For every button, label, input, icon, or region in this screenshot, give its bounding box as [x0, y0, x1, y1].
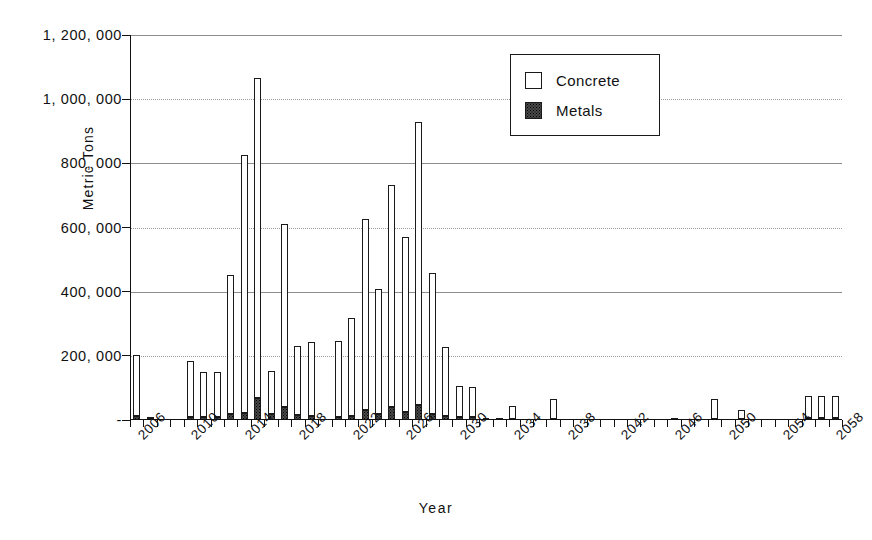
y-tick-label: 1, 000, 000 — [22, 91, 122, 107]
x-tick-mark — [829, 420, 830, 427]
bar-segment-concrete — [214, 372, 221, 417]
bar-segment-concrete — [429, 273, 436, 414]
y-tick-mark — [122, 227, 130, 228]
plot-area — [130, 35, 842, 420]
x-tick-mark — [399, 420, 400, 427]
bar-segment-concrete — [388, 185, 395, 406]
x-tick-mark — [385, 420, 386, 427]
x-tick-mark — [560, 420, 561, 427]
x-tick-mark — [600, 420, 601, 427]
bar-segment-concrete — [415, 122, 422, 404]
metals-swatch-icon — [525, 102, 542, 119]
bar-segment-concrete — [335, 341, 342, 416]
x-tick-mark — [506, 420, 507, 427]
x-tick-mark — [654, 420, 655, 427]
bar-2019 — [308, 342, 315, 420]
bar-segment-concrete — [550, 399, 557, 418]
x-tick-mark — [493, 420, 494, 427]
bar-2018 — [294, 346, 301, 420]
bar-segment-metals — [281, 407, 288, 420]
x-tick-mark — [546, 420, 547, 427]
chart-legend: Concrete Metals — [510, 54, 660, 136]
y-axis-line — [130, 35, 131, 420]
legend-item-metals: Metals — [525, 95, 659, 125]
bar-2010 — [187, 361, 194, 420]
x-tick-mark — [721, 420, 722, 427]
legend-label-concrete: Concrete — [556, 72, 620, 89]
bar-segment-concrete — [456, 386, 463, 416]
x-tick-mark — [775, 420, 776, 427]
y-tick-label: - — [22, 412, 122, 428]
bar-segment-concrete — [133, 355, 140, 416]
x-tick-mark — [237, 420, 238, 427]
bar-2021 — [335, 341, 342, 420]
x-tick-mark — [815, 420, 816, 427]
x-axis-title: Year — [0, 500, 872, 516]
bar-2028 — [429, 273, 436, 420]
bar-2014 — [241, 155, 248, 420]
bar-2030 — [456, 386, 463, 420]
concrete-swatch-icon — [525, 72, 542, 89]
bar-segment-concrete — [442, 347, 449, 416]
bar-2049 — [711, 399, 718, 420]
bar-segment-concrete — [362, 219, 369, 410]
x-tick-mark — [614, 420, 615, 427]
bar-2017 — [281, 224, 288, 420]
x-tick-mark — [345, 420, 346, 427]
y-tick-mark — [122, 420, 130, 421]
bar-segment-concrete — [254, 78, 261, 397]
y-tick-mark — [122, 163, 130, 164]
chart-figure: Metric Tons 1, 200, 0001, 000, 000800, 0… — [0, 0, 872, 540]
x-tick-mark — [452, 420, 453, 427]
bar-segment-concrete — [402, 237, 409, 412]
bar-segment-concrete — [187, 361, 194, 417]
bar-segment-concrete — [711, 399, 718, 418]
x-tick-mark — [332, 420, 333, 427]
bar-segment-concrete — [227, 275, 234, 415]
bar-2027 — [415, 122, 422, 420]
bar-2029 — [442, 347, 449, 420]
y-tick-label: 800, 000 — [22, 155, 122, 171]
bar-2024 — [375, 289, 382, 420]
x-tick-mark — [170, 420, 171, 427]
y-tick-label: 200, 000 — [22, 348, 122, 364]
x-axis-tick-labels: 2006201020142018202220262030203420382042… — [130, 428, 842, 488]
x-tick-mark — [761, 420, 762, 427]
bar-segment-concrete — [375, 289, 382, 414]
x-tick-mark — [224, 420, 225, 427]
y-tick-mark — [122, 35, 130, 36]
y-tick-mark — [122, 99, 130, 100]
y-tick-mark — [122, 355, 130, 356]
bar-2026 — [402, 237, 409, 420]
bar-segment-concrete — [294, 346, 301, 415]
bar-2057 — [818, 396, 825, 420]
bar-segment-concrete — [241, 155, 248, 413]
y-tick-label: 1, 200, 000 — [22, 27, 122, 43]
y-tick-label: 600, 000 — [22, 220, 122, 236]
bar-2006 — [133, 355, 140, 420]
bar-segment-concrete — [348, 318, 355, 416]
bar-2015 — [254, 78, 261, 420]
x-tick-mark — [278, 420, 279, 427]
bar-2022 — [348, 318, 355, 420]
x-tick-mark — [291, 420, 292, 427]
bar-segment-concrete — [818, 396, 825, 418]
bar-2013 — [227, 275, 234, 420]
bar-segment-concrete — [200, 372, 207, 418]
x-tick-mark — [439, 420, 440, 427]
bar-segment-concrete — [281, 224, 288, 407]
bar-series-group — [130, 35, 842, 420]
bar-segment-concrete — [832, 396, 839, 418]
bar-2058 — [832, 396, 839, 420]
bar-segment-concrete — [268, 371, 275, 414]
y-tick-label: 400, 000 — [22, 284, 122, 300]
bar-2037 — [550, 399, 557, 420]
legend-item-concrete: Concrete — [525, 65, 659, 95]
bar-2034 — [509, 406, 516, 420]
y-tick-mark — [122, 291, 130, 292]
bar-segment-metals — [388, 407, 395, 420]
x-tick-mark — [667, 420, 668, 427]
bar-segment-concrete — [308, 342, 315, 416]
bar-2023 — [362, 219, 369, 420]
bar-2025 — [388, 185, 395, 420]
